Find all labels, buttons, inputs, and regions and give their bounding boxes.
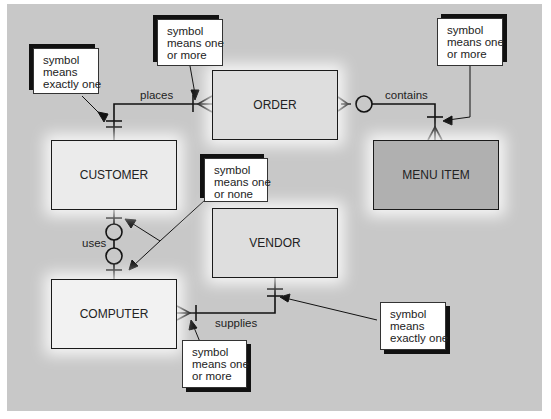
callout-line: symbol [167, 25, 222, 37]
entity-label: CUSTOMER [80, 168, 148, 182]
zero-circle-icon [106, 248, 122, 264]
entity-computer: COMPUTER [51, 279, 177, 349]
relationship-label-places: places [140, 89, 173, 101]
callout-line: symbol [192, 346, 246, 358]
contains-line [372, 104, 435, 140]
callout-one-or-none: symbolmeans oneor none [204, 158, 268, 202]
zero-circle-icon [106, 224, 122, 240]
entity-label: MENU ITEM [402, 168, 469, 182]
callout-one-or-more: symbolmeans oneor more [182, 340, 247, 388]
callout-line: or none [214, 188, 267, 200]
callout-line: symbol [390, 308, 445, 320]
callout-line: symbol [447, 24, 502, 36]
callout-line: or more [192, 370, 246, 382]
entity-vendor: VENDOR [212, 208, 338, 278]
places-line [114, 104, 212, 140]
callout-line: or more [167, 49, 222, 61]
callout-one-or-more: symbolmeans oneor more [157, 19, 223, 66]
relationship-label-contains: contains [385, 89, 428, 101]
callout-exactly-one: symbolmeansexactly one [380, 302, 446, 350]
relationship-label-supplies: supplies [215, 317, 257, 329]
callout-line: symbol [43, 54, 98, 66]
supplies-line [177, 278, 275, 313]
callout-one-or-more: symbolmeans oneor more [437, 18, 503, 66]
callout-line: or more [447, 48, 502, 60]
relationship-label-uses: uses [82, 237, 106, 249]
entity-menu-item: MENU ITEM [373, 140, 499, 210]
zero-circle-icon [356, 96, 372, 112]
callout-line: exactly one [43, 78, 98, 90]
callout-exactly-one: symbolmeansexactly one [33, 48, 99, 94]
callout-line: means one [447, 36, 502, 48]
callout-line: means one [192, 358, 246, 370]
callout-line: means one [214, 176, 267, 188]
entity-label: COMPUTER [80, 307, 149, 321]
callout-line: symbol [214, 164, 267, 176]
callout-line: exactly one [390, 332, 445, 344]
callout-line: means [390, 320, 445, 332]
callout-line: means [43, 66, 98, 78]
entity-label: ORDER [253, 98, 296, 112]
entity-label: VENDOR [249, 236, 300, 250]
entity-order: ORDER [212, 70, 338, 140]
callout-line: means one [167, 37, 222, 49]
entity-customer: CUSTOMER [51, 140, 177, 210]
